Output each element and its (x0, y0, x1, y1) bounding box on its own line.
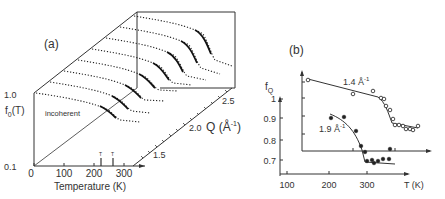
curve-q-6 (106, 38, 206, 80)
x-tick-0: 0 (28, 168, 34, 179)
q-axis-label: Q (Å-1) (206, 119, 241, 134)
b-x-tick-300: 300 (359, 180, 374, 190)
b-y-tick-0-8: 0.8 (263, 136, 276, 146)
diagonal-floor-line (34, 88, 137, 166)
q-tick-2-5: 2.5 (222, 96, 235, 106)
b-y-tick-0-7: 0.7 (263, 156, 276, 166)
panel-b-label: (b) (289, 43, 304, 57)
figure: (a) 1.0 f0(T) incoherent 0.1 0 100 200 3… (0, 0, 445, 199)
panel-a-curves (36, 16, 232, 122)
series-1-9-label: 1.9 Å-1 (319, 123, 346, 134)
x-tick-200: 200 (86, 168, 103, 179)
panel-a-dense-points (100, 30, 211, 118)
y-tick-top: 1.0 (4, 90, 17, 100)
x-tick-100: 100 (56, 168, 73, 179)
b-x-axis-label: T (K) (404, 180, 424, 190)
curve-q-5 (92, 49, 192, 85)
curve-q-7 (120, 27, 220, 74)
b-y-tick-0-9: 0.9 (263, 114, 276, 124)
series-1-9 (329, 114, 395, 165)
q-tick-1-5: 1.5 (153, 150, 166, 160)
b-x-tick-200: 200 (321, 180, 336, 190)
b-y-axis-label: fQ (265, 81, 274, 95)
q-tick-2-0: 2.0 (189, 123, 202, 133)
tc-marker-1: T (99, 151, 102, 157)
panel-a (34, 12, 235, 168)
series-1-4-label: 1.4 Å-1 (343, 76, 370, 87)
b-y-tick-1: 1 (271, 94, 276, 104)
panel-a-label: (a) (44, 37, 59, 51)
b-x-tick-100: 100 (279, 180, 294, 190)
top-left-edge (34, 12, 137, 93)
tc-marker-2: T (111, 151, 114, 157)
y-tick-bottom: 0.1 (4, 162, 17, 172)
x-axis-label: Temperature (K) (54, 181, 126, 192)
x-tick-300: 300 (116, 168, 133, 179)
incoherent-annotation: incoherent (45, 109, 81, 118)
curve-q-8 (134, 16, 232, 66)
y-axis-label: f0(T) (5, 105, 24, 118)
